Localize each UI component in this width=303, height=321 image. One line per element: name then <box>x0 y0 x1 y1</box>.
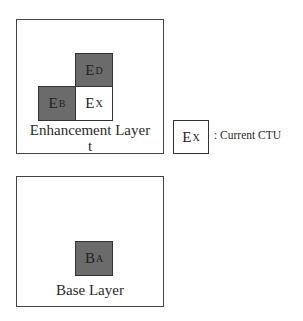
legend-box-ex: EX <box>173 120 209 154</box>
cell-ba-main: B <box>85 250 95 267</box>
cell-ex-main: E <box>85 95 94 112</box>
cell-ed: ED <box>75 53 113 88</box>
cell-ex: EX <box>75 86 113 121</box>
legend-box-main: E <box>182 129 191 146</box>
cell-ed-sub: D <box>95 65 102 76</box>
base-layer-label: Base Layer <box>16 282 164 299</box>
cell-ed-main: E <box>85 62 94 79</box>
cell-ba: BA <box>75 241 113 276</box>
enhancement-layer-label-suffix: t <box>16 138 164 155</box>
legend-box-sub: X <box>192 132 199 143</box>
legend-text: : Current CTU <box>214 129 281 141</box>
cell-ex-sub: X <box>95 98 102 109</box>
cell-eb: EB <box>38 86 76 121</box>
enhancement-layer-label: Enhancement Layer <box>16 122 164 139</box>
cell-eb-sub: B <box>59 98 66 109</box>
cell-ba-sub: A <box>96 253 103 264</box>
cell-eb-main: E <box>49 95 58 112</box>
